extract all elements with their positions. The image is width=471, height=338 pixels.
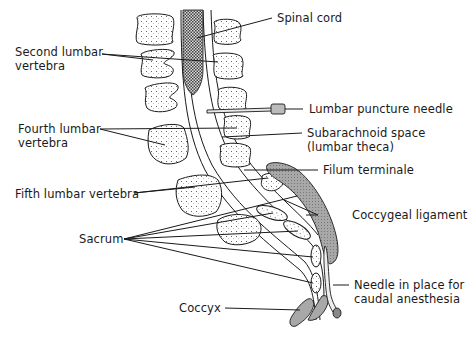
label-subarachnoid-space-line2: (lumbar theca) <box>307 141 394 154</box>
label-coccygeal-ligament: Coccygeal ligament <box>352 209 467 222</box>
label-second-lumbar: Second lumbar <box>15 46 103 59</box>
label-filum-terminale: Filum terminale <box>323 164 414 177</box>
label-sacrum: Sacrum <box>79 233 124 246</box>
spinal-anatomy-diagram: Spinal cord Second lumbar vertebra Lumba… <box>0 0 471 338</box>
spinal-cord-shape <box>183 10 203 95</box>
label-lumbar-puncture-needle: Lumbar puncture needle <box>309 103 453 116</box>
label-second-lumbar-line2: vertebra <box>15 60 65 73</box>
label-fourth-lumbar: Fourth lumbar <box>18 123 101 136</box>
label-fourth-lumbar-line2: vertebra <box>18 137 68 150</box>
label-needle-caudal-line2: caudal anesthesia <box>354 293 460 306</box>
label-subarachnoid-space: Subarachnoid space <box>307 127 425 140</box>
coccyx-shape <box>290 299 314 327</box>
label-needle-caudal: Needle in place for <box>354 279 464 292</box>
label-coccyx: Coccyx <box>179 302 221 315</box>
label-spinal-cord: Spinal cord <box>277 12 342 25</box>
label-fifth-lumbar: Fifth lumbar vertebra <box>15 188 139 201</box>
